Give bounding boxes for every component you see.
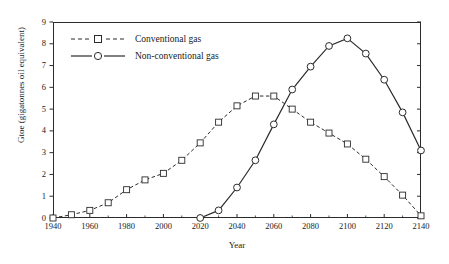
legend-item-conventional-gas: Conventional gas [70, 30, 219, 47]
chart-legend: Conventional gas Non-conventional gas [70, 30, 219, 64]
legend-key-dashed-square [70, 33, 126, 45]
series-non-conventional-gas [197, 35, 425, 221]
legend-label-non-conventional-gas: Non-conventional gas [135, 51, 219, 61]
legend-item-non-conventional-gas: Non-conventional gas [70, 47, 219, 64]
legend-label-conventional-gas: Conventional gas [135, 34, 201, 44]
series-conventional-gas [50, 93, 424, 221]
chart-plot-svg [0, 0, 449, 264]
legend-key-solid-circle [70, 50, 126, 62]
gas-production-chart: Gtoe (gigatonnes oil equivalent) Year 01… [0, 0, 449, 264]
